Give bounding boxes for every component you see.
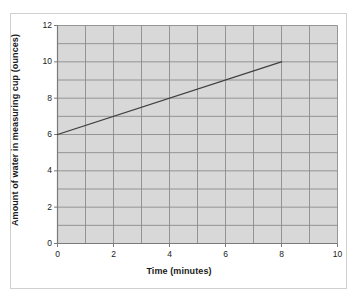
x-tick-label: 4 — [155, 249, 185, 259]
chart-figure: Amount of water in measuring cup (ounces… — [0, 0, 358, 303]
x-tick-label: 8 — [267, 249, 297, 259]
y-axis-title: Amount of water in measuring cup (ounces… — [10, 34, 20, 226]
y-tick-label: 4 — [30, 165, 52, 175]
y-tick-label: 8 — [30, 93, 52, 103]
x-tick-label: 0 — [43, 249, 73, 259]
y-tick-label: 0 — [30, 238, 52, 248]
x-tick-label: 6 — [211, 249, 241, 259]
y-tick-label: 6 — [30, 129, 52, 139]
y-tick-label: 2 — [30, 202, 52, 212]
y-tick-label: 12 — [30, 20, 52, 30]
y-axis-title-container: Amount of water in measuring cup (ounces… — [0, 0, 30, 260]
x-tick-label: 10 — [323, 249, 353, 259]
y-tick-label: 10 — [30, 56, 52, 66]
x-axis-title: Time (minutes) — [0, 266, 358, 276]
x-tick-label: 2 — [99, 249, 129, 259]
